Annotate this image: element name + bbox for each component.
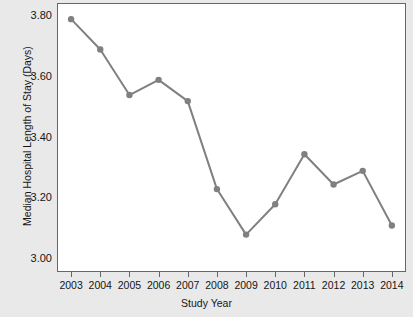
x-tick-mark xyxy=(188,272,189,277)
data-point xyxy=(126,92,132,98)
x-tick-mark xyxy=(100,272,101,277)
x-axis-title: Study Year xyxy=(0,298,413,309)
y-tick-label: 3.00 xyxy=(18,253,52,264)
data-point xyxy=(97,46,103,52)
y-tick-label: 3.80 xyxy=(18,10,52,21)
y-tick-label: 3.60 xyxy=(18,71,52,82)
data-point xyxy=(155,77,161,83)
x-tick-mark xyxy=(71,272,72,277)
plot-area xyxy=(57,3,406,272)
x-tick-mark xyxy=(392,272,393,277)
data-point xyxy=(330,181,336,187)
x-tick-mark xyxy=(304,272,305,277)
line-chart-svg xyxy=(58,4,405,271)
y-tick-label: 3.20 xyxy=(18,192,52,203)
data-point xyxy=(301,151,307,157)
data-point xyxy=(185,98,191,104)
x-tick-mark xyxy=(334,272,335,277)
x-tick-mark xyxy=(363,272,364,277)
x-tick-mark xyxy=(217,272,218,277)
chart-figure: Median Hospital Length of Stay (Days) 3.… xyxy=(0,0,413,317)
x-tick-mark xyxy=(129,272,130,277)
x-tick-mark xyxy=(246,272,247,277)
data-point xyxy=(360,168,366,174)
data-series-line xyxy=(71,19,392,234)
data-point-markers xyxy=(68,16,395,238)
x-tick-mark xyxy=(159,272,160,277)
data-point xyxy=(68,16,74,22)
data-point xyxy=(272,201,278,207)
data-point xyxy=(214,186,220,192)
x-tick-label: 2014 xyxy=(372,280,412,291)
data-point xyxy=(243,231,249,237)
y-axis-ticks: 3.003.203.403.603.80 xyxy=(14,0,52,317)
data-point xyxy=(389,222,395,228)
y-tick-label: 3.40 xyxy=(18,132,52,143)
x-tick-mark xyxy=(275,272,276,277)
